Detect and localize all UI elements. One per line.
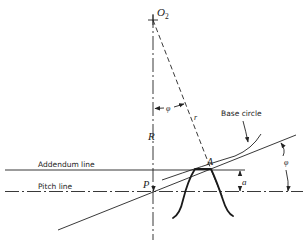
addendum-dimension: a — [240, 171, 247, 191]
gear-geometry-diagram: O2 φ r R Base circle Addendum line Pitch… — [0, 0, 306, 248]
radius-R-label: R — [147, 130, 155, 142]
svg-text:φ: φ — [284, 158, 289, 167]
pitch-point-label: P — [142, 179, 150, 190]
radius-r-line — [153, 20, 212, 172]
gear-tooth-profile — [173, 169, 233, 218]
svg-text:φ: φ — [166, 104, 171, 113]
center-o2-label: O2 — [157, 6, 169, 21]
phi-angle-dimension-top: φ — [155, 104, 184, 113]
pitch-line-label: Pitch line — [38, 182, 73, 191]
base-circle-label: Base circle — [221, 109, 262, 118]
base-circle-leader — [243, 121, 248, 142]
contact-point-label: A — [206, 156, 214, 167]
svg-text:a: a — [242, 177, 247, 187]
radius-r-label: r — [194, 113, 198, 122]
phi-angle-dimension-right: φ — [281, 143, 289, 191]
addendum-line-label: Addendum line — [38, 160, 95, 169]
